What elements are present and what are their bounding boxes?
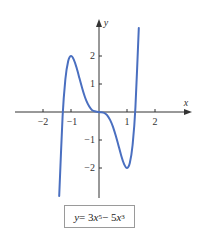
formula-minus: − 5 [102,211,116,223]
y-tick-label: 1 [90,78,95,89]
y-tick-label: −1 [84,134,95,145]
y-axis-arrow-icon [96,19,102,27]
y-tick-label: 2 [90,50,95,61]
function-plot: −2 −1 1 2 2 1 −1 −2 x y [0,0,202,234]
y-tick-label: −2 [84,162,95,173]
x-tick-label: −2 [38,116,49,127]
x-tick-label: −1 [67,116,78,127]
x-axis-arrow-icon [184,109,192,115]
x-tick-label: 1 [125,116,130,127]
y-axis-label: y [103,17,109,28]
formula-eq: = 3 [79,211,93,223]
x-tick-label: 2 [153,116,158,127]
formula-box: y = 3x5 − 5x3 [64,205,135,228]
x-axis-label: x [183,97,189,108]
